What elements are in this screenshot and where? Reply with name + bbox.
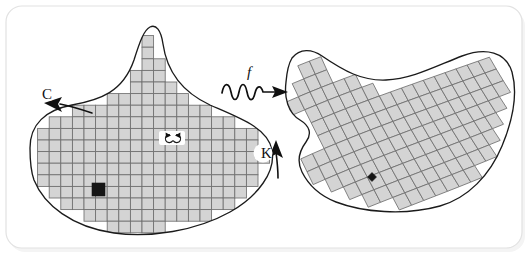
- grid-cell: [49, 128, 61, 140]
- grid-cell: [200, 140, 212, 152]
- grid-cell: [38, 140, 50, 152]
- grid-cell: [165, 198, 177, 210]
- grid-cell: [107, 94, 119, 106]
- grid-cell: [165, 117, 177, 129]
- grid-cell: [177, 117, 189, 129]
- grid-cell: [154, 105, 166, 117]
- grid-cell: [200, 163, 212, 175]
- grid-cell: [235, 152, 247, 164]
- grid-cell: [165, 105, 177, 117]
- grid-cell: [142, 140, 154, 152]
- grid-cell: [142, 210, 154, 222]
- grid-cell: [212, 186, 224, 198]
- grid-cell: [177, 152, 189, 164]
- grid-cell: [38, 152, 50, 164]
- grid-cell: [38, 175, 50, 187]
- grid-cell: [154, 117, 166, 129]
- grid-cell: [61, 198, 73, 210]
- grid-cell: [177, 175, 189, 187]
- grid-cell: [107, 175, 119, 187]
- grid-cell: [130, 117, 142, 129]
- grid-cell: [165, 163, 177, 175]
- grid-cell: [142, 128, 154, 140]
- grid-cell: [235, 140, 247, 152]
- grid-cell: [223, 128, 235, 140]
- grid-cell: [188, 198, 200, 210]
- grid-cell: [177, 210, 189, 222]
- grid-cell: [223, 152, 235, 164]
- grid-cell: [154, 186, 166, 198]
- grid-cell: [84, 152, 96, 164]
- grid-cell: [130, 175, 142, 187]
- figure-root: C C K f: [0, 0, 528, 258]
- grid-cell: [119, 186, 131, 198]
- grid-cell: [119, 117, 131, 129]
- grid-cell: [188, 186, 200, 198]
- grid-cell: [212, 128, 224, 140]
- grid-cell: [130, 140, 142, 152]
- grid-cell: [142, 70, 154, 82]
- compact-set-label: K: [261, 145, 272, 161]
- grid-cell: [130, 70, 142, 82]
- grid-cell: [223, 117, 235, 129]
- grid-cell: [119, 152, 131, 164]
- grid-cell: [200, 198, 212, 210]
- grid-cell: [49, 152, 61, 164]
- grid-cell: [235, 163, 247, 175]
- grid-cell: [38, 163, 50, 175]
- grid-cell: [200, 152, 212, 164]
- grid-cell: [107, 128, 119, 140]
- grid-cell: [119, 163, 131, 175]
- grid-cell: [154, 198, 166, 210]
- grid-cell: [177, 105, 189, 117]
- grid-cell: [96, 140, 108, 152]
- grid-cell: [130, 198, 142, 210]
- grid-cell: [188, 163, 200, 175]
- grid-cell: [142, 186, 154, 198]
- grid-cell: [38, 128, 50, 140]
- grid-cell: [72, 198, 84, 210]
- grid-cell: [130, 152, 142, 164]
- grid-cell: [84, 198, 96, 210]
- grid-cell: [61, 117, 73, 129]
- grid-cell: [142, 94, 154, 106]
- grid-cell: [142, 198, 154, 210]
- grid-cell: [72, 186, 84, 198]
- source-marked-cell: [92, 183, 105, 196]
- grid-cell: [165, 186, 177, 198]
- grid-cell: [212, 152, 224, 164]
- grid-cell: [119, 105, 131, 117]
- grid-cell: [142, 117, 154, 129]
- grid-cell: [154, 175, 166, 187]
- grid-cell: [177, 186, 189, 198]
- grid-cell: [212, 198, 224, 210]
- grid-cell: [61, 152, 73, 164]
- grid-cell: [72, 117, 84, 129]
- grid-cell: [107, 210, 119, 222]
- grid-cell: [177, 163, 189, 175]
- grid-cell: [142, 59, 154, 71]
- grid-cell: [246, 128, 258, 140]
- grid-cell: [107, 198, 119, 210]
- grid-cell: [188, 152, 200, 164]
- grid-cell: [61, 186, 73, 198]
- grid-cell: [49, 163, 61, 175]
- grid-cell: [119, 128, 131, 140]
- grid-cell: [188, 175, 200, 187]
- grid-cell: [130, 105, 142, 117]
- grid-cell: [96, 105, 108, 117]
- grid-cell: [130, 82, 142, 94]
- grid-cell: [96, 152, 108, 164]
- curve-label: C: [42, 86, 52, 102]
- grid-cell: [119, 140, 131, 152]
- grid-cell: [72, 175, 84, 187]
- grid-cell: [154, 59, 166, 71]
- grid-cell: [200, 210, 212, 222]
- grid-cell: [49, 117, 61, 129]
- grid-cell: [235, 186, 247, 198]
- grid-cell: [119, 175, 131, 187]
- grid-cell: [96, 210, 108, 222]
- grid-cell: [142, 82, 154, 94]
- grid-cell: [188, 117, 200, 129]
- grid-cell: [107, 163, 119, 175]
